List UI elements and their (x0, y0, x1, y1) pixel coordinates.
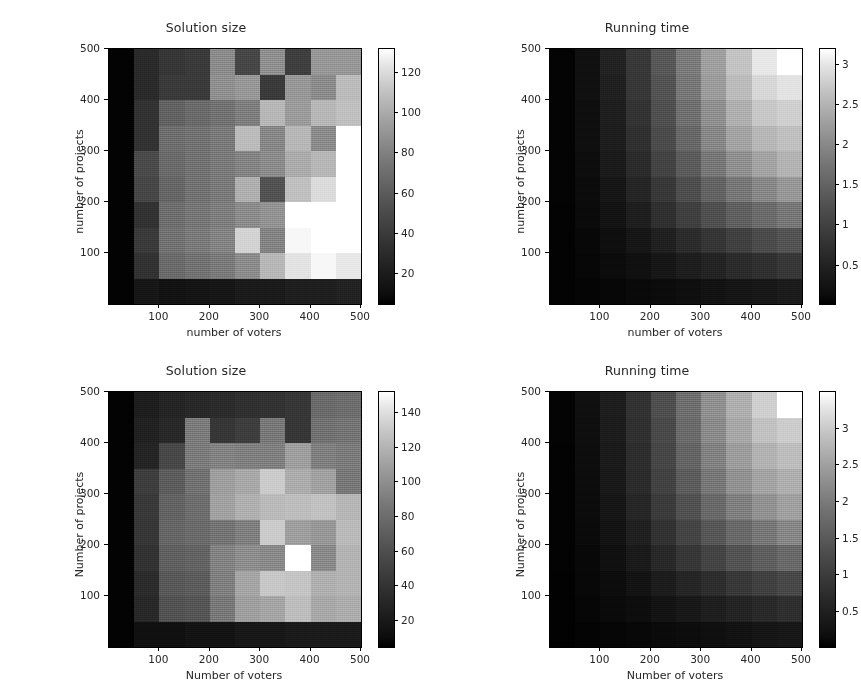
colorbar-tick-label: 2 (842, 495, 849, 507)
heatmap-axes (108, 391, 362, 648)
heatmap-cell (726, 418, 751, 444)
heatmap-cell (134, 100, 159, 126)
heatmap-cell (626, 228, 651, 254)
heatmap-cell (701, 469, 726, 495)
heatmap-cell (701, 622, 726, 648)
heatmap-cell (651, 596, 676, 622)
colorbar-tick-label: 40 (401, 227, 414, 239)
x-axis-tick-label: 200 (640, 310, 660, 322)
heatmap-cell (626, 571, 651, 597)
heatmap-cell (550, 596, 575, 622)
colorbar-tick-label: 2.5 (842, 458, 859, 470)
x-axis-tick (599, 647, 600, 651)
heatmap-cell (336, 253, 361, 279)
heatmap-cell (752, 418, 777, 444)
heatmap-cell (336, 177, 361, 203)
x-axis-tick (360, 304, 361, 308)
x-axis-tick-label: 500 (791, 653, 811, 665)
x-axis-tick-label: 200 (199, 310, 219, 322)
heatmap-cell (336, 126, 361, 152)
heatmap-cell (701, 279, 726, 305)
heatmap-cell (777, 443, 802, 469)
y-axis-tick (104, 150, 108, 151)
colorbar (378, 391, 395, 648)
heatmap-cell (626, 494, 651, 520)
colorbar-tick (394, 112, 398, 113)
x-axis-tick-label: 200 (640, 653, 660, 665)
heatmap-cell (159, 571, 184, 597)
colorbar-tick (835, 611, 839, 612)
heatmap-cell (185, 469, 210, 495)
heatmap-cell (210, 202, 235, 228)
y-axis-tick (104, 99, 108, 100)
colorbar-tick-label: 100 (401, 475, 421, 487)
heatmap-cell (777, 228, 802, 254)
heatmap-cell (235, 469, 260, 495)
heatmap-axes (549, 391, 803, 648)
heatmap-cell (285, 392, 310, 418)
heatmap-cell (752, 596, 777, 622)
heatmap-cell (651, 279, 676, 305)
heatmap-cell (752, 279, 777, 305)
heatmap-cell (777, 151, 802, 177)
heatmap-cell (777, 494, 802, 520)
x-axis-tick-label: 400 (300, 310, 320, 322)
heatmap-cell (752, 392, 777, 418)
heatmap-cell (651, 469, 676, 495)
heatmap-cell (701, 545, 726, 571)
heatmap-cell (185, 279, 210, 305)
heatmap-cell (676, 279, 701, 305)
heatmap-cell (210, 279, 235, 305)
heatmap-cell (134, 228, 159, 254)
heatmap-cell (726, 596, 751, 622)
heatmap-cell (726, 49, 751, 75)
heatmap-grid (109, 49, 361, 304)
heatmap-cell (260, 177, 285, 203)
x-axis-label: Number of voters (549, 669, 801, 682)
heatmap-cell (777, 202, 802, 228)
heatmap-cell (210, 443, 235, 469)
heatmap-cell (336, 520, 361, 546)
heatmap-cell (651, 126, 676, 152)
heatmap-cell (726, 253, 751, 279)
heatmap-cell (777, 418, 802, 444)
colorbar-tick-label: 1.5 (842, 532, 859, 544)
heatmap-cell (159, 202, 184, 228)
heatmap-cell (109, 253, 134, 279)
heatmap-grid (109, 392, 361, 647)
x-axis-tick-label: 300 (249, 310, 269, 322)
heatmap-cell (210, 622, 235, 648)
heatmap-cell (260, 75, 285, 101)
heatmap-cell (134, 49, 159, 75)
heatmap-cell (676, 151, 701, 177)
heatmap-cell (676, 75, 701, 101)
heatmap-cell (701, 228, 726, 254)
heatmap-cell (285, 494, 310, 520)
heatmap-cell (651, 177, 676, 203)
colorbar-tick-label: 2 (842, 138, 849, 150)
heatmap-cell (651, 228, 676, 254)
heatmap-cell (550, 545, 575, 571)
heatmap-grid (550, 49, 802, 304)
colorbar (378, 48, 395, 305)
heatmap-cell (336, 443, 361, 469)
panel-top-right: Running time1002003004005001002003004005… (469, 8, 861, 357)
heatmap-cell (109, 100, 134, 126)
heatmap-cell (285, 228, 310, 254)
colorbar-tick-label: 60 (401, 187, 414, 199)
heatmap-cell (235, 622, 260, 648)
colorbar-tick-label: 120 (401, 66, 421, 78)
heatmap-cell (575, 75, 600, 101)
heatmap-cell (752, 520, 777, 546)
heatmap-cell (159, 392, 184, 418)
heatmap-cell (210, 392, 235, 418)
heatmap-cell (336, 596, 361, 622)
heatmap-cell (260, 596, 285, 622)
heatmap-cell (336, 469, 361, 495)
heatmap-cell (701, 520, 726, 546)
heatmap-cell (159, 151, 184, 177)
panel-bottom-right: Running time1002003004005001002003004005… (469, 351, 861, 699)
heatmap-cell (260, 494, 285, 520)
heatmap-cell (701, 75, 726, 101)
heatmap-cell (600, 177, 625, 203)
